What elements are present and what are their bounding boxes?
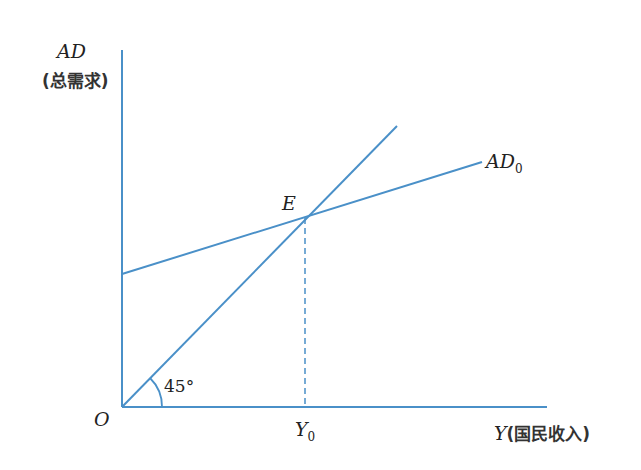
diagram: AD (总需求) E AD0 45° O Y0 Y(国民收入) [0,0,641,470]
line-45-degree [122,126,397,407]
x-axis-label: Y(国民收入) [494,420,590,445]
angle-label: 45° [164,376,194,396]
ad0-label: AD0 [486,150,523,172]
y0-label: Y0 [295,418,315,440]
y-axis-label: AD [57,40,86,62]
angle-arc [150,378,162,407]
ad0-line [122,162,482,274]
origin-label: O [94,408,110,430]
y-axis-label-cn: (总需求) [42,67,109,92]
equilibrium-label: E [282,192,296,214]
